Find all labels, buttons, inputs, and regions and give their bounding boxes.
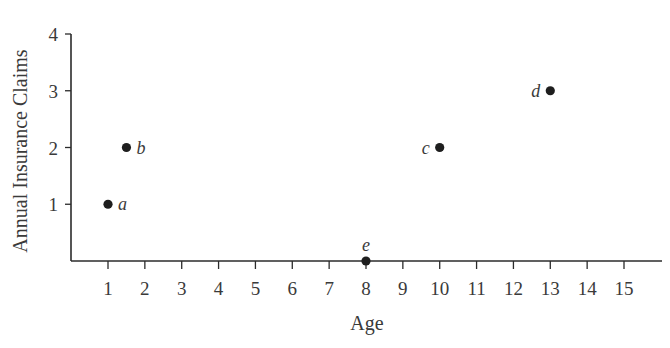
y-tick-label: 4 xyxy=(49,24,59,45)
x-tick-label: 9 xyxy=(398,278,408,299)
data-point-a: a xyxy=(103,194,127,214)
x-tick-label: 11 xyxy=(467,278,485,299)
axes xyxy=(71,34,662,261)
scatter-chart: 123456789101112131415 1234 abcde Age Ann… xyxy=(0,0,670,348)
x-axis-ticks: 123456789101112131415 xyxy=(103,261,633,299)
data-point-d: d xyxy=(531,81,555,101)
data-point-c: c xyxy=(422,138,445,158)
data-point-b: b xyxy=(122,138,146,158)
y-tick-label: 1 xyxy=(49,194,59,215)
x-tick-label: 8 xyxy=(361,278,371,299)
point-label: c xyxy=(422,138,430,158)
x-tick-label: 12 xyxy=(504,278,523,299)
x-tick-label: 13 xyxy=(541,278,560,299)
x-tick-label: 14 xyxy=(578,278,598,299)
x-tick-label: 4 xyxy=(214,278,224,299)
x-axis-title: Age xyxy=(350,312,383,335)
point-label: e xyxy=(362,235,370,255)
x-tick-label: 5 xyxy=(251,278,261,299)
y-tick-label: 2 xyxy=(49,138,59,159)
point-marker xyxy=(361,256,370,265)
data-point-e: e xyxy=(361,235,370,266)
point-marker xyxy=(103,200,112,209)
point-label: b xyxy=(136,138,145,158)
y-axis-ticks: 1234 xyxy=(49,24,72,215)
x-tick-label: 6 xyxy=(288,278,298,299)
point-label: a xyxy=(118,194,127,214)
point-marker xyxy=(435,143,444,152)
point-marker xyxy=(546,86,555,95)
x-tick-label: 10 xyxy=(430,278,449,299)
y-axis-title: Annual Insurance Claims xyxy=(9,49,31,252)
point-label: d xyxy=(531,81,541,101)
x-tick-label: 1 xyxy=(103,278,113,299)
data-points: abcde xyxy=(103,81,554,266)
x-tick-label: 15 xyxy=(615,278,634,299)
y-tick-label: 3 xyxy=(49,81,59,102)
point-marker xyxy=(122,143,131,152)
x-tick-label: 7 xyxy=(324,278,334,299)
x-tick-label: 3 xyxy=(177,278,187,299)
x-tick-label: 2 xyxy=(140,278,150,299)
